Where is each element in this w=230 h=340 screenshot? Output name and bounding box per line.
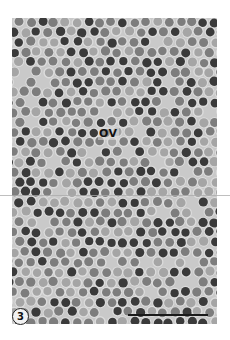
- region-label-ov: OV: [98, 127, 119, 140]
- scale-bar: [128, 314, 208, 316]
- granule-lattice: [12, 18, 217, 324]
- figure-number-badge: 3: [12, 308, 29, 325]
- micrograph-panel: OV: [12, 18, 217, 324]
- scan-artifact-line: [0, 195, 230, 196]
